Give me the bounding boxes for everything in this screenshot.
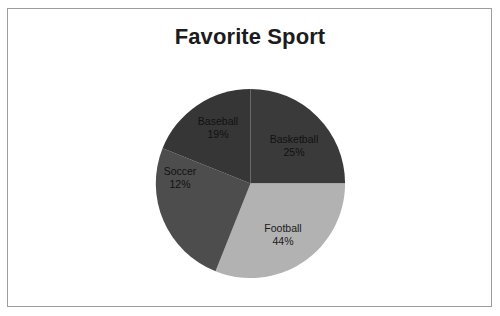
chart-canvas: Favorite Sport Basketball 25% Baseball 1… <box>0 0 500 316</box>
pie-slice-basketball[interactable] <box>251 89 346 184</box>
chart-title: Favorite Sport <box>0 24 500 50</box>
pie-svg <box>153 86 348 281</box>
pie-chart-plot-area <box>153 86 348 281</box>
